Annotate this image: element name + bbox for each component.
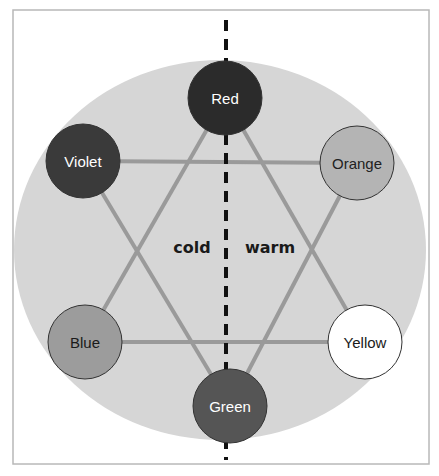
node-red: Red [188,61,262,135]
connector-violet-orange [83,161,357,163]
node-blue: Blue [48,305,122,379]
node-violet: Violet [46,124,120,198]
node-orange: Orange [320,126,394,200]
color-wheel-diagram: RedVioletOrangeBlueYellowGreen coldwarm [0,0,439,476]
warm-label: warm [245,238,295,257]
node-red-label: Red [211,90,239,107]
node-green: Green [193,369,267,443]
node-violet-label: Violet [64,153,102,170]
node-blue-label: Blue [70,334,100,351]
cold-label: cold [173,238,210,257]
node-yellow-label: Yellow [344,334,387,351]
node-orange-label: Orange [332,155,382,172]
node-green-label: Green [209,398,251,415]
node-yellow: Yellow [328,305,402,379]
